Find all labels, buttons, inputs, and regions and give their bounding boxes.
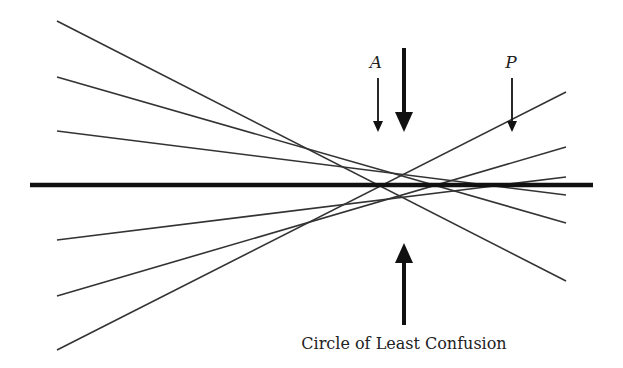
ray-3	[57, 77, 566, 223]
spherical-aberration-diagram: A P Circle of Least Confusion	[0, 0, 623, 368]
ray-1	[57, 21, 566, 281]
ray-4	[57, 147, 566, 296]
arrow-circle-bottom-icon	[395, 243, 413, 325]
arrow-circle-top-icon	[395, 48, 413, 132]
arrow-a-icon	[373, 78, 383, 132]
caption-circle-of-least-confusion: Circle of Least Confusion	[301, 334, 506, 353]
arrow-p-icon	[507, 78, 517, 132]
label-p: P	[504, 52, 517, 72]
label-a: A	[368, 52, 382, 72]
